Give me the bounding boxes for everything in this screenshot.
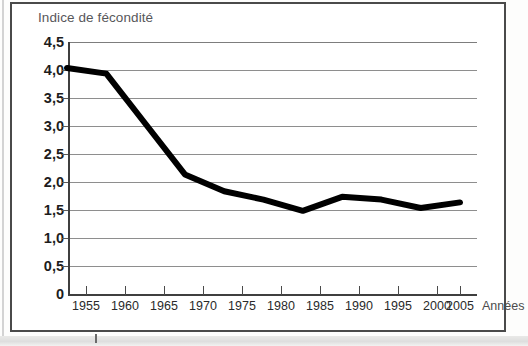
- y-tick-label-2-5: 2,5: [44, 147, 64, 162]
- y-axis-line: [68, 42, 70, 296]
- y-tick-label-4-0: 4,0: [44, 63, 64, 78]
- y-tick-label-4-5: 4,5: [44, 35, 64, 50]
- gridline-3-5: [69, 98, 477, 99]
- x-tick-1965: [164, 286, 165, 295]
- x-tick-1975: [242, 286, 243, 295]
- y-tick-label-3-5: 3,5: [44, 91, 64, 106]
- gridline-4-0: [69, 70, 477, 71]
- x-tick-label-2005: 2005: [437, 299, 483, 313]
- x-tick-2000: [437, 286, 438, 295]
- gridline-1-5: [69, 210, 477, 211]
- plot-area: [69, 42, 477, 294]
- gridline-2-0: [69, 182, 477, 183]
- x-tick-1960: [125, 286, 126, 295]
- gridline-4-5: [69, 42, 477, 43]
- x-tick-1970: [203, 286, 204, 295]
- y-axis-tick-labels: 4,5 4,0 3,5 3,0 2,5 2,0 1,5 1,0 0,5 0: [12, 4, 64, 334]
- x-tick-1955: [86, 286, 87, 295]
- gridline-2-5: [69, 154, 477, 155]
- y-tick-label-1-0: 1,0: [44, 231, 64, 246]
- y-tick-label-1-5: 1,5: [44, 203, 64, 218]
- scan-registration-mark: [95, 334, 97, 343]
- page-edge-line: [2, 0, 4, 340]
- x-tick-1995: [398, 286, 399, 295]
- y-tick-label-3-0: 3,0: [44, 119, 64, 134]
- gridline-3-0: [69, 126, 477, 127]
- x-tick-2005: [460, 286, 461, 295]
- x-axis-line: [68, 294, 477, 296]
- x-axis-title: Années: [482, 299, 524, 313]
- x-tick-1985: [320, 286, 321, 295]
- y-tick-label-2-0: 2,0: [44, 175, 64, 190]
- x-tick-1990: [359, 286, 360, 295]
- y-tick-label-0-5: 0,5: [44, 259, 64, 274]
- figure-frame: Indice de fécondité 4,5 4,0 3,5 3,0 2,5 …: [10, 2, 506, 332]
- gridline-1-0: [69, 238, 477, 239]
- scan-bottom-strip: [0, 336, 528, 346]
- x-tick-1980: [281, 286, 282, 295]
- scanned-page-background: Indice de fécondité 4,5 4,0 3,5 3,0 2,5 …: [0, 0, 528, 346]
- gridline-0-5: [69, 266, 477, 267]
